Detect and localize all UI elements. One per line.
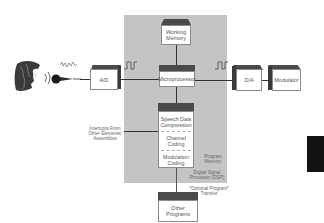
square-wave-icon <box>215 61 229 70</box>
ad-label: A/D <box>99 77 108 83</box>
da-converter-block[interactable]: D/A <box>236 69 262 91</box>
microprocessor-label: Microprocessor <box>158 76 196 82</box>
program-memory-annotation: Program Memory <box>200 154 226 164</box>
ad-to-micro-line <box>121 79 159 80</box>
da-label: D/A <box>244 77 253 83</box>
program-memory-top <box>158 103 194 111</box>
modulator-block[interactable]: Modulator <box>272 69 301 91</box>
square-wave-icon <box>124 61 138 70</box>
edge-black-bar <box>307 136 324 172</box>
ad-block-side <box>118 66 121 89</box>
section-label: Compression <box>160 122 191 128</box>
other-programs-block[interactable]: Other Programs <box>158 200 198 222</box>
other-programs-label-2: Programs <box>166 211 190 217</box>
microphone-icon <box>51 73 81 85</box>
working-memory-block[interactable]: Working Memory <box>161 25 191 45</box>
mic-to-ad-line <box>80 79 90 80</box>
other-programs-top <box>158 192 198 200</box>
ad-converter-block[interactable]: A/D <box>90 69 118 90</box>
modulator-label: Modulator <box>274 77 298 83</box>
interrupts-annotation: Interrupts From Other Elements/ Assembli… <box>84 126 126 142</box>
speaking-head-icon <box>14 60 44 94</box>
micro-program-link <box>176 87 177 103</box>
memory-micro-link <box>176 45 177 65</box>
section-label: Coding <box>168 160 185 166</box>
microprocessor-block[interactable]: Microprocessor <box>159 71 195 87</box>
section-label: Coding <box>168 141 185 147</box>
interrupts-line <box>124 131 158 132</box>
micro-to-da-line <box>195 80 232 81</box>
speech-compression-section[interactable]: Speech Data Compression <box>159 113 193 130</box>
modulation-coding-section[interactable]: Modulation Coding <box>159 151 193 168</box>
program-memory-block[interactable]: Speech Data Compression Channel Coding M… <box>158 111 194 168</box>
working-memory-label-2: Memory <box>166 35 186 41</box>
program-transfer-line <box>176 168 177 192</box>
channel-coding-section[interactable]: Channel Coding <box>159 132 193 149</box>
analog-waveform-icon <box>60 61 78 68</box>
dsp-annotation: Digital Signal Processor (DSP) <box>186 170 228 180</box>
